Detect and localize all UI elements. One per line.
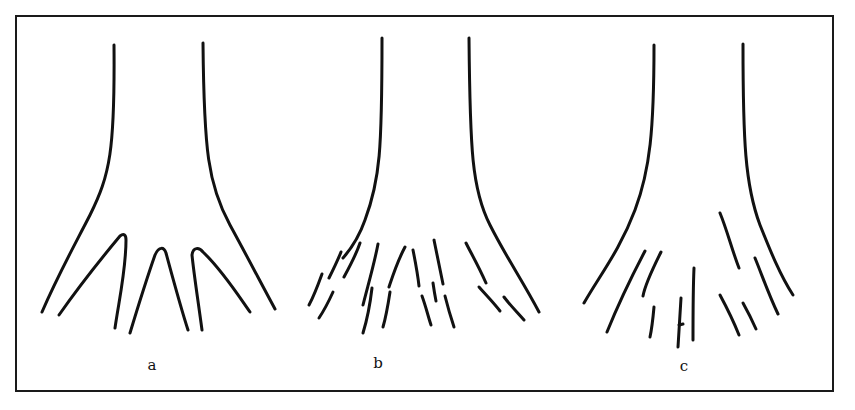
branch-stroke	[679, 324, 683, 325]
branch-stroke	[413, 250, 419, 286]
branch-stroke	[130, 248, 188, 333]
figure-frame	[16, 16, 833, 391]
branch-stroke	[693, 268, 694, 340]
branch-stroke	[422, 296, 431, 325]
figure-canvas: a b c	[0, 0, 855, 410]
branch-stroke	[755, 258, 778, 314]
branch-stroke	[479, 287, 500, 311]
branch-stroke	[433, 283, 436, 301]
branch-stroke	[319, 292, 333, 318]
panel-a-continuous-branching: a	[42, 43, 275, 374]
panel-label-c: c	[680, 357, 688, 375]
branch-stroke	[607, 251, 645, 332]
branch-stroke	[743, 303, 756, 329]
panel-label-a: a	[148, 356, 157, 374]
branch-stroke	[389, 247, 405, 287]
branch-stroke	[720, 213, 739, 268]
branch-stroke	[643, 252, 661, 296]
panel-b-branch-strokes	[309, 38, 539, 333]
branch-stroke	[434, 240, 443, 284]
panel-c-sparse-fragments: c	[584, 44, 793, 375]
branch-stroke	[203, 43, 275, 309]
branch-stroke	[42, 45, 114, 312]
branch-stroke	[343, 38, 382, 258]
branch-stroke	[720, 295, 739, 335]
branch-stroke	[584, 45, 654, 303]
branch-stroke	[383, 292, 390, 327]
branch-stroke	[678, 298, 681, 347]
branch-stroke	[59, 235, 126, 328]
branch-stroke	[743, 44, 793, 295]
branch-stroke	[650, 307, 654, 337]
branch-stroke	[445, 296, 454, 327]
branch-stroke	[309, 274, 322, 305]
branch-stroke	[466, 243, 486, 283]
panel-label-b: b	[373, 354, 383, 372]
branch-stroke	[329, 252, 341, 278]
panel-a-branch-strokes	[42, 43, 275, 333]
panel-c-branch-strokes	[584, 44, 793, 347]
branch-stroke	[192, 249, 250, 330]
branch-stroke	[504, 297, 524, 320]
panel-b-fragmented-branching: b	[309, 38, 539, 372]
